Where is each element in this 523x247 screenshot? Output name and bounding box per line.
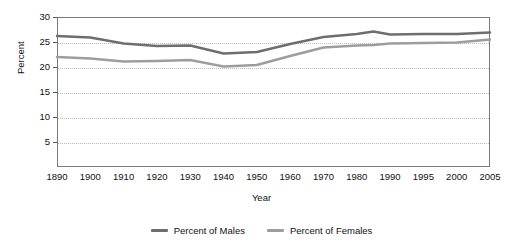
x-tick-label: 1990 bbox=[379, 172, 400, 182]
x-tick-label: 1900 bbox=[80, 172, 101, 182]
y-tick-label: 25 bbox=[28, 37, 50, 47]
x-tick-label: 2000 bbox=[446, 172, 467, 182]
x-tick-label: 1995 bbox=[413, 172, 434, 182]
x-tick-label: 1930 bbox=[180, 172, 201, 182]
x-tick-label: 1980 bbox=[346, 172, 367, 182]
x-tick-label: 1920 bbox=[146, 172, 167, 182]
chart-legend: Percent of MalesPercent of Females bbox=[0, 225, 523, 236]
x-tick-label: 2005 bbox=[479, 172, 500, 182]
y-tick-label: 15 bbox=[28, 87, 50, 97]
x-tick-label: 1940 bbox=[213, 172, 234, 182]
line-chart: Percent 51015202530 18901900191019201930… bbox=[0, 0, 523, 247]
x-tick-label: 1950 bbox=[246, 172, 267, 182]
x-tick-label: 1910 bbox=[113, 172, 134, 182]
legend-label: Percent of Females bbox=[290, 225, 372, 236]
legend-item[interactable]: Percent of Males bbox=[151, 225, 245, 236]
legend-item[interactable]: Percent of Females bbox=[267, 225, 372, 236]
legend-swatch-icon bbox=[151, 229, 168, 232]
y-tick-label: 30 bbox=[28, 12, 50, 22]
x-tick-label: 1970 bbox=[313, 172, 334, 182]
data-series-layer bbox=[57, 17, 490, 167]
y-tick-label: 5 bbox=[28, 137, 50, 147]
y-tick-label: 10 bbox=[28, 112, 50, 122]
y-tick-label: 20 bbox=[28, 62, 50, 72]
x-tick-label: 1890 bbox=[46, 172, 67, 182]
y-axis-title: Percent bbox=[15, 41, 26, 74]
legend-swatch-icon bbox=[267, 229, 284, 232]
x-axis-title: Year bbox=[0, 192, 523, 203]
x-tick-label: 1960 bbox=[280, 172, 301, 182]
legend-label: Percent of Males bbox=[174, 225, 245, 236]
